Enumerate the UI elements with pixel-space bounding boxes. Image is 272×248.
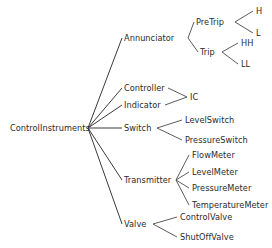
tree-node-l[interactable]: L bbox=[256, 29, 261, 38]
tree-node-levelswitch[interactable]: LevelSwitch bbox=[185, 116, 234, 125]
tree-node-pressureswitch[interactable]: PressureSwitch bbox=[185, 136, 248, 145]
tree-node-valve[interactable]: Valve bbox=[124, 220, 146, 229]
tree-node-hh[interactable]: HH bbox=[241, 39, 253, 48]
tree-node-temperaturemeter[interactable]: TemperatureMeter bbox=[192, 201, 268, 210]
tree-node-trip[interactable]: Trip bbox=[200, 48, 215, 57]
tree-node-levelmeter[interactable]: LevelMeter bbox=[192, 168, 238, 177]
tree-node-controlvalve[interactable]: ControlValve bbox=[180, 213, 232, 222]
tree-node-ll[interactable]: LL bbox=[241, 60, 250, 69]
tree-node-shutoffvalve[interactable]: ShutOffValve bbox=[180, 233, 234, 242]
tree-node-ic[interactable]: IC bbox=[190, 93, 198, 102]
tree-node-root[interactable]: ControlInstruments bbox=[10, 124, 90, 133]
tree-node-h[interactable]: H bbox=[256, 7, 262, 16]
tree-node-flowmeter[interactable]: FlowMeter bbox=[192, 151, 235, 160]
tree-node-controller[interactable]: Controller bbox=[124, 84, 165, 93]
tree-node-pressuremeter[interactable]: PressureMeter bbox=[192, 184, 251, 193]
tree-node-transmitter[interactable]: Transmitter bbox=[124, 176, 171, 185]
tree-node-indicator[interactable]: Indicator bbox=[124, 101, 161, 110]
tree-node-pretrip[interactable]: PreTrip bbox=[196, 18, 224, 27]
tree-node-annunciator[interactable]: Annunciator bbox=[124, 34, 174, 43]
tree-node-switch[interactable]: Switch bbox=[124, 124, 151, 133]
